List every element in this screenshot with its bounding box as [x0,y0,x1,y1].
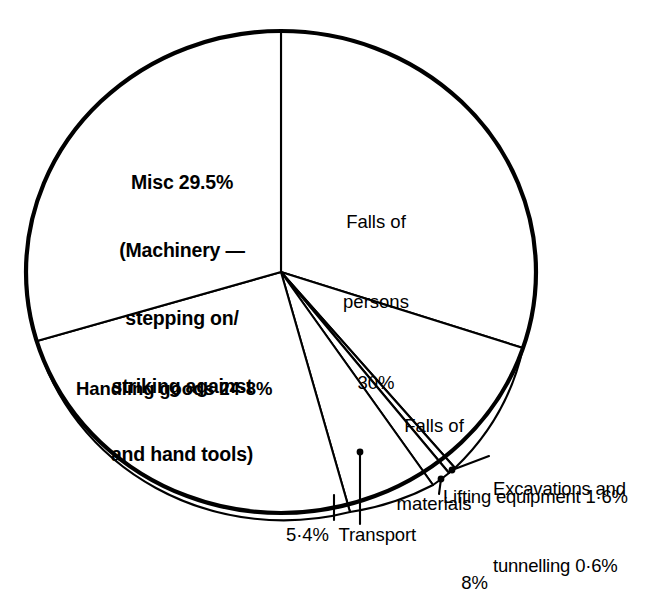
slice-label-falls-of-materials-value: 8% [372,570,496,593]
slice-label-misc-line1: Misc 29.5% [84,171,280,194]
slice-label-misc-line5: and hand tools) [84,443,280,466]
slice-label-falls-of-materials: Falls of materials 8% [372,360,496,593]
slice-label-misc-line3: stepping on/ [84,307,280,330]
slice-label-misc-line2: (Machinery — [84,239,280,262]
slice-label-falls-of-persons-line2: persons [304,289,448,316]
slice-label-lifting-equipment: Lifting equipment 1·6% [443,486,628,508]
slice-label-transport: 5·4% Transport [286,524,416,546]
slice-label-misc: Misc 29.5% (Machinery — stepping on/ str… [84,126,280,510]
slice-label-handling-goods: Handling goods 24·8% [76,378,272,400]
slice-label-excavations-and-tunnelling: Excavations and tunnelling 0·6% [493,425,626,593]
slice-label-excavations-line2: tunnelling 0·6% [493,553,626,579]
slice-label-falls-of-persons-line1: Falls of [304,209,448,236]
slice-label-falls-of-materials-line1: Falls of [372,413,496,439]
